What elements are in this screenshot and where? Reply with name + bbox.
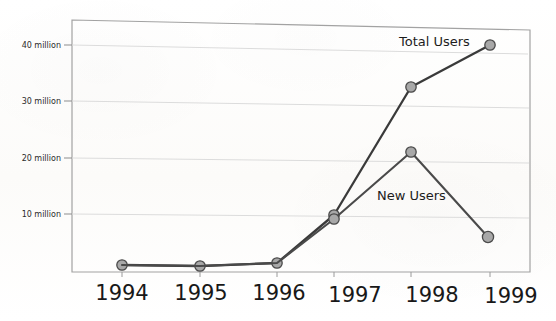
x-axis-label-1998: 1998 — [405, 283, 458, 307]
annotation-total-users: Total Users — [398, 34, 470, 49]
x-axis-labels: 1994 1995 1996 1997 1998 1999 — [95, 281, 537, 308]
plot-frame — [72, 20, 530, 272]
y-axis-labels: 40 million 30 million 20 million 10 mill… — [22, 41, 61, 219]
series-line-new-users — [122, 152, 488, 266]
series-total-users — [117, 40, 495, 271]
series-markers-total-users — [117, 40, 495, 271]
y-axis-label-30m: 30 million — [22, 97, 61, 106]
gridline-20m — [72, 158, 529, 163]
annotation-label-total-users: Total Users — [398, 34, 470, 49]
line-chart: 40 million 30 million 20 million 10 mill… — [0, 0, 556, 321]
annotation-label-new-users: New Users — [377, 188, 446, 203]
series-new-users — [122, 147, 494, 266]
data-point-new-1998 — [406, 147, 416, 157]
data-point-new-1997 — [329, 214, 339, 224]
chart-screenshot: 40 million 30 million 20 million 10 mill… — [0, 0, 556, 321]
data-point-new-1999 — [482, 231, 493, 242]
series-line-total-users — [122, 45, 490, 266]
gridlines — [72, 45, 529, 218]
x-tick-marks — [122, 272, 490, 277]
y-tick-marks — [64, 45, 72, 214]
y-axis-label-40m: 40 million — [22, 41, 61, 50]
y-axis-label-10m: 10 million — [22, 210, 61, 219]
data-point-total-1999 — [485, 40, 495, 50]
gridline-10m — [72, 214, 529, 218]
x-axis-label-1994: 1994 — [95, 281, 148, 305]
x-axis-label-1999: 1999 — [484, 284, 537, 308]
x-axis-label-1997: 1997 — [328, 283, 381, 307]
plot-border — [72, 20, 530, 272]
data-point-total-1998 — [406, 82, 416, 92]
annotation-new-users: New Users — [377, 188, 446, 203]
y-axis-label-20m: 20 million — [22, 154, 61, 163]
gridline-30m — [72, 101, 529, 108]
x-axis-label-1995: 1995 — [174, 281, 227, 305]
x-axis-label-1996: 1996 — [252, 281, 305, 305]
